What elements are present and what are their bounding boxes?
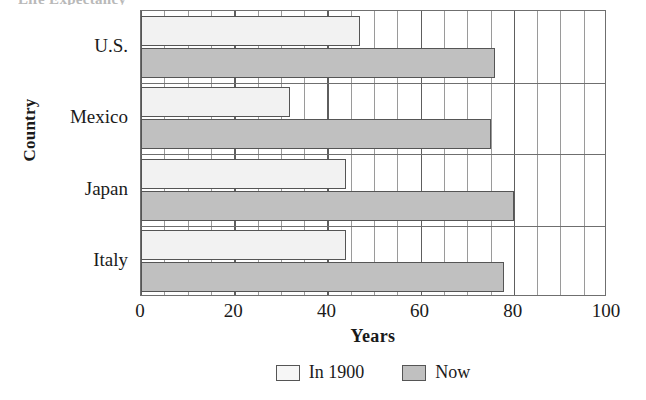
bar-mexico-now xyxy=(141,119,491,149)
legend-item: Now xyxy=(402,362,470,383)
legend-label: In 1900 xyxy=(309,362,365,383)
x-axis-tick-labels: 020406080100 xyxy=(140,300,606,328)
chart-legend: In 1900Now xyxy=(140,362,606,383)
legend-label: Now xyxy=(435,362,470,383)
bar-us-now xyxy=(141,48,495,78)
x-axis-tick-label: 0 xyxy=(135,300,145,322)
y-axis-tick-label: U.S. xyxy=(94,36,128,55)
bar-chart-figure: Life Expectancy Country U.S.MexicoJapanI… xyxy=(0,0,646,400)
x-axis-tick-label: 100 xyxy=(592,300,621,322)
bar-italy-now xyxy=(141,262,504,292)
x-axis-tick-label: 40 xyxy=(317,300,336,322)
bar-mexico-in1900 xyxy=(141,87,290,117)
chart-title-cutoff: Life Expectancy xyxy=(18,0,418,5)
bar-italy-in1900 xyxy=(141,230,346,260)
light-gray-swatch xyxy=(276,365,300,381)
bar-japan-in1900 xyxy=(141,159,346,189)
bar-us-in1900 xyxy=(141,16,360,46)
y-axis-tick-label: Mexico xyxy=(70,107,128,126)
x-axis-title: Years xyxy=(140,326,606,347)
bar-japan-now xyxy=(141,191,514,221)
x-axis-tick-label: 80 xyxy=(503,300,522,322)
plot-area xyxy=(140,10,606,296)
y-axis-tick-label: Italy xyxy=(93,250,128,269)
dark-gray-swatch xyxy=(402,365,426,381)
legend-item: In 1900 xyxy=(276,362,365,383)
y-axis-tick-label: Japan xyxy=(85,179,128,198)
x-axis-tick-label: 20 xyxy=(224,300,243,322)
bars-layer xyxy=(141,11,605,295)
x-axis-tick-label: 60 xyxy=(410,300,429,322)
y-axis-tick-labels: U.S.MexicoJapanItaly xyxy=(0,10,134,296)
